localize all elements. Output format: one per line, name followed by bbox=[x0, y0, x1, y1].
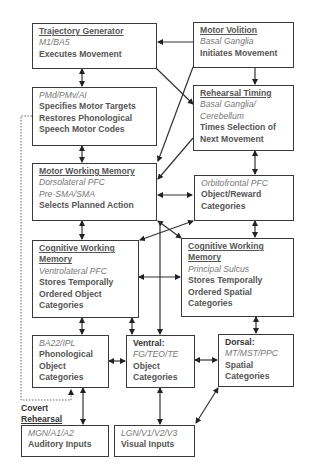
box-function: Ordered Object bbox=[39, 289, 133, 300]
rehearsal-timing-box: Rehearsal Timing Basal Ganglia/ Cerebell… bbox=[193, 85, 294, 151]
cognitive-wm-spatial-box: Cognitive Working Memory Principal Sulcu… bbox=[181, 238, 294, 317]
box-function: Object/Reward bbox=[201, 189, 288, 200]
orbitofrontal-pfc-box: Orbitofrontal PFC Object/Reward Categori… bbox=[194, 175, 294, 221]
box-title: Motor Working Memory bbox=[39, 166, 151, 177]
trajectory-generator-box: Trajectory Generator M1/BA5 Executes Mov… bbox=[32, 23, 157, 69]
box-region: Principal Sulcus bbox=[188, 264, 288, 275]
dorsal-stream-box: Dorsal: MT/MST/PPC Spatial Categories bbox=[218, 334, 294, 387]
box-function: Stores Temporally bbox=[188, 275, 288, 286]
box-title: Memory bbox=[188, 252, 288, 263]
box-title: Ventral: bbox=[133, 338, 189, 349]
box-function: Object bbox=[133, 361, 189, 372]
box-title: Trajectory Generator bbox=[39, 26, 151, 37]
box-region: LGN/V1/V2/V3 bbox=[121, 428, 189, 439]
box-function: Spatial bbox=[225, 360, 288, 371]
phonological-categories-box: BA22/IPL Phonological Object Categories bbox=[32, 335, 109, 388]
diagram-canvas: Trajectory Generator M1/BA5 Executes Mov… bbox=[0, 0, 316, 475]
box-region: Dorsolateral PFC bbox=[39, 177, 151, 188]
box-title: Memory bbox=[39, 254, 133, 265]
box-title: Dorsal: bbox=[225, 337, 288, 348]
visual-inputs-box: LGN/V1/V2/V3 Visual Inputs bbox=[114, 425, 195, 457]
box-function: Categories bbox=[188, 298, 288, 309]
box-region: PMd/PMv/AI bbox=[39, 90, 151, 101]
box-region: Orbitofrontal PFC bbox=[201, 178, 288, 189]
auditory-inputs-box: MGN/A1/A2 Auditory Inputs bbox=[21, 425, 109, 457]
box-function: Restores Phonological bbox=[39, 113, 151, 124]
covert-rehearsal-label-2: Rehearsal bbox=[21, 414, 62, 425]
box-region: FG/TEO/TE bbox=[133, 349, 189, 360]
box-function: Categories bbox=[225, 371, 288, 382]
cognitive-wm-object-box: Cognitive Working Memory Ventrolateral P… bbox=[32, 240, 139, 318]
box-region: Basal Ganglia bbox=[200, 36, 288, 47]
pmd-pmv-ai-box: PMd/PMv/AI Specifies Motor Targets Resto… bbox=[32, 87, 157, 146]
box-function: Phonological bbox=[39, 349, 103, 360]
box-function: Categories bbox=[39, 300, 133, 311]
box-function: Ordered Spatial bbox=[188, 287, 288, 298]
box-function: Categories bbox=[133, 372, 189, 383]
box-region: MT/MST/PPC bbox=[225, 348, 288, 359]
box-function: Specifies Motor Targets bbox=[39, 101, 151, 112]
box-region: BA22/IPL bbox=[39, 338, 103, 349]
box-function: Categories bbox=[201, 201, 288, 212]
box-function: Object bbox=[39, 361, 103, 372]
box-function: Auditory Inputs bbox=[28, 439, 103, 450]
box-region: Pre-SMA/SMA bbox=[39, 189, 151, 200]
covert-rehearsal-label: Covert bbox=[21, 403, 48, 414]
ventral-stream-box: Ventral: FG/TEO/TE Object Categories bbox=[126, 335, 195, 388]
box-function: Stores Temporally bbox=[39, 277, 133, 288]
motor-volition-box: Motor Volition Basal Ganglia Initiates M… bbox=[193, 22, 294, 68]
box-region: M1/BA5 bbox=[39, 37, 151, 48]
box-title: Rehearsal Timing bbox=[200, 88, 288, 99]
box-function: Initiates Movement bbox=[200, 48, 288, 59]
box-function: Executes Movement bbox=[39, 49, 151, 60]
box-function: Visual Inputs bbox=[121, 439, 189, 450]
box-function: Selects Planned Action bbox=[39, 200, 151, 211]
box-region: Cerebellum bbox=[200, 111, 288, 122]
box-function: Speech Motor Codes bbox=[39, 124, 151, 135]
box-title: Motor Volition bbox=[200, 25, 288, 36]
box-title: Cognitive Working bbox=[188, 241, 288, 252]
box-function: Times Selection of bbox=[200, 122, 288, 133]
motor-working-memory-box: Motor Working Memory Dorsolateral PFC Pr… bbox=[32, 163, 157, 221]
box-region: MGN/A1/A2 bbox=[28, 428, 103, 439]
box-title: Cognitive Working bbox=[39, 243, 133, 254]
box-region: Ventrolateral PFC bbox=[39, 266, 133, 277]
box-function: Next Movement bbox=[200, 134, 288, 145]
box-function: Categories bbox=[39, 372, 103, 383]
box-region: Basal Ganglia/ bbox=[200, 99, 288, 110]
